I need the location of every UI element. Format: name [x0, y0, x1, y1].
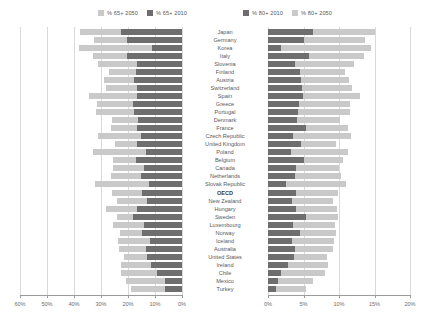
axis-tick: [47, 295, 48, 298]
bar-segment-2010: [268, 109, 298, 115]
bar-segment-2010: [141, 133, 182, 139]
bar-segment-2010: [127, 53, 182, 59]
bar-segment-2050: [304, 37, 364, 43]
bar-row: [268, 109, 410, 115]
chart-panel-65plus: [20, 27, 182, 295]
bar-row: [20, 133, 182, 139]
bar-segment-2010: [268, 181, 286, 187]
bar-segment-2010: [127, 37, 182, 43]
bar-row: [20, 77, 182, 83]
axis-tick-label: 5%: [289, 301, 319, 307]
axis-tick-label: 10%: [140, 301, 170, 307]
bar-segment-2050: [291, 149, 348, 155]
bar-segment-2050: [120, 230, 142, 236]
bar-row: [268, 69, 410, 75]
category-label-new-zealand: New Zealand: [182, 198, 268, 204]
bar-row: [20, 173, 182, 179]
bar-segment-2010: [144, 222, 182, 228]
axis-tick: [410, 295, 411, 298]
bar-row: [268, 206, 410, 212]
legend-swatch-65-2050: [98, 10, 104, 16]
bar-segment-2050: [93, 53, 127, 59]
bar-row: [268, 29, 410, 35]
bar-row: [20, 246, 182, 252]
bar-segment-2050: [112, 190, 142, 196]
axis-tick: [155, 295, 156, 298]
bar-row: [268, 254, 410, 260]
axis-tick: [20, 295, 21, 298]
axis-tick-label: 40%: [59, 301, 89, 307]
legend-group-left: % 65+ 2050 % 65+ 2010: [98, 10, 187, 16]
category-label-oecd: OECD: [182, 190, 268, 196]
bar-segment-2050: [106, 206, 137, 212]
category-label-japan: Japan: [182, 29, 268, 35]
bar-segment-2050: [121, 270, 157, 276]
bar-segment-2050: [121, 262, 151, 268]
bar-segment-2050: [96, 109, 134, 115]
axis-tick: [128, 295, 129, 298]
axis-tick: [268, 295, 269, 298]
legend-entry-65-2050: % 65+ 2050: [98, 10, 138, 16]
bar-row: [268, 141, 410, 147]
bar-segment-2010: [137, 85, 182, 91]
bar-segment-2010: [268, 117, 297, 123]
bar-segment-2050: [294, 254, 327, 260]
bar-row: [20, 117, 182, 123]
legend-label-80-2010: % 80+ 2010: [252, 10, 283, 16]
bar-segment-2050: [117, 214, 133, 220]
bar-segment-2050: [286, 181, 346, 187]
bar-row: [268, 190, 410, 196]
bar-segment-2010: [147, 254, 182, 260]
bar-segment-2010: [268, 238, 292, 244]
bar-segment-2010: [137, 206, 182, 212]
bar-row: [268, 270, 410, 276]
legend-entry-80-2050: % 80+ 2050: [292, 10, 332, 16]
bar-row: [268, 149, 410, 155]
bar-segment-2010: [268, 254, 294, 260]
bar-row: [20, 125, 182, 131]
bar-segment-2010: [165, 286, 182, 292]
bar-row: [20, 206, 182, 212]
bar-segment-2010: [144, 165, 182, 171]
bar-row: [268, 157, 410, 163]
bar-row: [20, 254, 182, 260]
bar-row: [20, 37, 182, 43]
bar-segment-2050: [292, 238, 334, 244]
category-label-poland: Poland: [182, 149, 268, 155]
bar-segment-2010: [134, 77, 182, 83]
category-label-germany: Germany: [182, 37, 268, 43]
bars-right: [268, 27, 410, 295]
bar-row: [268, 173, 410, 179]
category-label-united-kingdom: United Kingdom: [182, 141, 268, 147]
category-label-united-states: United States: [182, 254, 268, 260]
axis-tick-label: 50%: [32, 301, 62, 307]
bar-row: [20, 230, 182, 236]
bar-segment-2010: [147, 198, 182, 204]
bar-segment-2050: [106, 85, 137, 91]
category-label-chile: Chile: [182, 270, 268, 276]
bar-row: [20, 93, 182, 99]
bar-segment-2050: [278, 278, 314, 284]
category-label-sweden: Sweden: [182, 214, 268, 220]
bar-segment-2050: [301, 77, 349, 83]
bar-row: [268, 222, 410, 228]
bar-segment-2010: [136, 69, 182, 75]
chart-panel-80plus: [268, 27, 410, 295]
bar-segment-2010: [268, 286, 276, 292]
category-label-australia: Australia: [182, 246, 268, 252]
bar-segment-2050: [113, 157, 136, 163]
category-label-denmark: Denmark: [182, 117, 268, 123]
bar-row: [268, 77, 410, 83]
bar-segment-2050: [281, 270, 324, 276]
bar-row: [268, 246, 410, 252]
axis-tick: [182, 295, 183, 298]
bar-segment-2050: [297, 117, 340, 123]
axis-tick: [74, 295, 75, 298]
axis-tick-label: 0%: [167, 301, 197, 307]
bar-row: [20, 45, 182, 51]
bar-row: [268, 37, 410, 43]
bars-left: [20, 27, 182, 295]
bar-segment-2050: [295, 246, 333, 252]
bar-segment-2050: [309, 53, 364, 59]
bar-segment-2050: [296, 165, 339, 171]
